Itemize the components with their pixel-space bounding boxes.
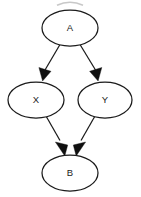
node-b[interactable]: B — [42, 155, 98, 191]
node-a-label: A — [67, 22, 74, 33]
dag-graph: A X Y B — [0, 0, 141, 197]
edge-y-to-b-arrowhead — [73, 142, 85, 156]
node-x-label: X — [33, 94, 40, 105]
node-x[interactable]: X — [8, 82, 64, 118]
edge-y-to-b — [73, 116, 95, 156]
edge-x-to-b — [46, 116, 68, 156]
edge-y-to-b-line — [81, 116, 95, 141]
node-y-label: Y — [102, 94, 109, 105]
node-a[interactable]: A — [42, 10, 98, 46]
diagram-canvas: A X Y B — [0, 0, 141, 197]
edge-a-to-y — [80, 45, 102, 82]
edge-a-to-x — [39, 45, 60, 82]
cropped-arc-top-edge-artifact — [57, 2, 83, 5]
edge-x-to-b-line — [46, 116, 60, 141]
edge-a-to-y-arrowhead — [90, 68, 102, 82]
node-b-label: B — [67, 167, 73, 178]
node-y[interactable]: Y — [78, 82, 132, 118]
edge-a-to-y-line — [80, 45, 96, 71]
edge-x-to-b-arrowhead — [55, 142, 67, 156]
edge-a-to-x-line — [45, 45, 60, 71]
edge-a-to-x-arrowhead — [39, 68, 51, 82]
